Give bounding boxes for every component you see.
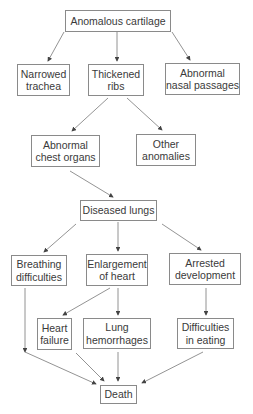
node-abnormal-nasal-passages: Abnormal nasal passages: [165, 63, 240, 95]
node-narrowed-trachea: Narrowed trachea: [17, 64, 70, 96]
node-difficulties-in-eating: Difficulties in eating: [177, 318, 234, 349]
node-abnormal-chest-organs: Abnormal chest organs: [31, 135, 100, 167]
node-anomalous-cartilage: Anomalous cartilage: [65, 10, 171, 32]
node-heart-failure: Heart failure: [37, 318, 72, 350]
node-arrested-development: Arrested development: [169, 253, 241, 285]
node-other-anomalies: Other anomalies: [136, 134, 196, 166]
node-breathing-difficulties: Breathing difficulties: [11, 255, 67, 286]
node-enlargement-of-heart: Enlargement of heart: [86, 254, 148, 286]
node-thickened-ribs: Thickened ribs: [88, 64, 144, 96]
node-lung-hemorrhages: Lung hemorrhages: [83, 318, 151, 349]
node-diseased-lungs: Diseased lungs: [80, 200, 157, 221]
node-death: Death: [100, 385, 137, 404]
